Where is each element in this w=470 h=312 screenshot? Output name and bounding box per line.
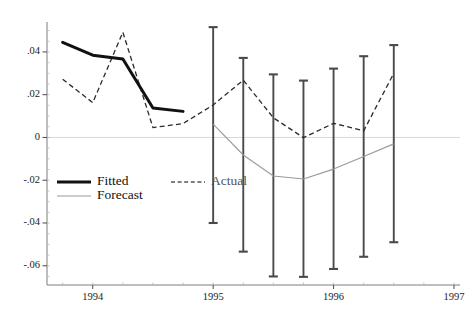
y-tick-label: -.02 [23, 174, 40, 185]
x-tick-label: 1996 [323, 291, 344, 302]
y-tick-label: 0 [35, 131, 40, 142]
x-tick-label: 1994 [82, 291, 104, 302]
forecast-chart: .04.020-.02-.04-.06 1994199519961997 Fit… [0, 0, 470, 312]
legend-label: Forecast [97, 187, 143, 202]
legend-label: Actual [211, 173, 247, 188]
series-fitted [63, 42, 183, 111]
chart-axes [47, 22, 460, 285]
chart-legend: FittedActualForecast [57, 173, 247, 202]
y-tick-label: .04 [27, 45, 41, 56]
y-axis-tick-labels: .04.020-.02-.04-.06 [23, 45, 40, 270]
error-bar [389, 45, 398, 242]
x-axis-tick-labels: 1994199519961997 [82, 291, 464, 302]
error-bar [209, 27, 218, 223]
error-bars [209, 27, 399, 277]
series-actual [63, 32, 394, 137]
y-axis-ticks [43, 31, 50, 277]
legend-label: Fitted [97, 173, 129, 188]
x-tick-label: 1995 [203, 291, 224, 302]
x-axis-ticks [63, 283, 454, 290]
actual-line [63, 32, 394, 137]
fitted-line [63, 42, 183, 111]
y-tick-label: .02 [27, 88, 40, 99]
y-tick-label: -.04 [23, 216, 40, 227]
chart-plot-area: .04.020-.02-.04-.06 1994199519961997 Fit… [0, 0, 470, 312]
x-tick-label: 1997 [443, 291, 464, 302]
y-tick-label: -.06 [23, 259, 40, 270]
